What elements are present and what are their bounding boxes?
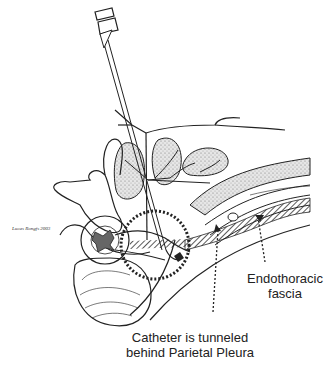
endothoracic-line-1: Endothoracic: [240, 271, 324, 286]
endothoracic-line-2: fascia: [240, 286, 324, 301]
catheter-tip: [174, 252, 184, 262]
paravertebral-catheter-diagram: [0, 0, 324, 365]
catheter-line-2: behind Parietal Pleura: [115, 345, 265, 360]
endothoracic-fascia-label: Endothoracic fascia: [240, 271, 324, 301]
catheter-line-1: Catheter is tunneled: [115, 330, 265, 345]
spinal-cord: [92, 230, 114, 252]
needle: [95, 8, 166, 250]
rib-cross-section: [228, 213, 238, 221]
artist-signature: Lucas Rongfs 2003: [12, 226, 50, 231]
catheter-tunneled-label: Catheter is tunneled behind Parietal Ple…: [115, 330, 265, 360]
